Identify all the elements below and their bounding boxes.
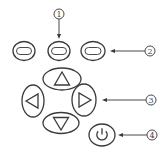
arrow-left-icon	[118, 133, 123, 137]
right-oval-button	[81, 42, 105, 61]
callout-4: 4	[118, 130, 157, 140]
left-button	[22, 85, 44, 117]
down-button	[43, 113, 79, 134]
dash-slot-icon	[17, 48, 32, 55]
callout-3-label: 3	[148, 96, 153, 105]
center-oval-button	[48, 42, 70, 61]
callout-3: 3	[102, 95, 156, 105]
dash-slot-icon	[85, 48, 101, 55]
callout-2: 2	[110, 46, 155, 56]
dash-slot-icon	[52, 48, 67, 55]
triangle-down-icon	[54, 118, 69, 131]
triangle-up-icon	[55, 72, 70, 85]
right-button	[72, 84, 96, 116]
power-button	[89, 124, 115, 146]
arrow-down-icon	[57, 34, 61, 39]
up-button	[43, 68, 81, 90]
power-icon	[97, 128, 107, 140]
callout-1: 1	[54, 9, 64, 39]
keypad-diagram: 1 2 3 4	[0, 0, 165, 155]
callout-2-label: 2	[147, 47, 152, 56]
left-oval-button	[13, 42, 35, 61]
triangle-left-icon	[26, 94, 38, 108]
arrow-left-icon	[102, 98, 107, 102]
callout-1-label: 1	[56, 10, 61, 19]
callout-4-label: 4	[149, 131, 154, 140]
arrow-left-icon	[110, 49, 115, 53]
triangle-right-icon	[79, 93, 91, 107]
